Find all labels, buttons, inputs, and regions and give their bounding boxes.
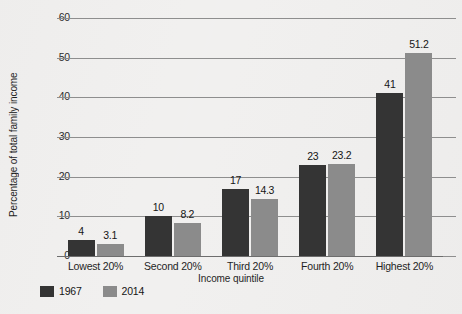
bar-1967-third-20-: [222, 189, 249, 256]
chart-page: Percentage of total family income 010203…: [0, 0, 462, 314]
gridline-50: [57, 58, 443, 59]
legend-swatch-icon: [40, 286, 54, 297]
bar-value-label: 23.2: [322, 149, 361, 161]
x-axis-title: Income quintile: [0, 273, 462, 284]
gridline-0: [57, 256, 443, 257]
bar-1967-highest-20-: [376, 93, 403, 256]
legend-label: 2014: [122, 285, 145, 297]
bar-value-label: 51.2: [399, 38, 438, 50]
x-tick-label-5: Highest 20%: [359, 260, 449, 272]
y-axis-title: Percentage of total family income: [8, 50, 22, 240]
bar-value-label: 41: [370, 78, 409, 90]
right-tick-20: [443, 177, 456, 178]
right-tick-30: [443, 137, 456, 138]
bar-value-label: 14.3: [245, 184, 284, 196]
bar-1967-second-20-: [145, 216, 172, 256]
legend-swatch-icon: [103, 286, 117, 297]
right-tick-40: [443, 97, 456, 98]
right-tick-10: [443, 216, 456, 217]
bar-2014-lowest-20-: [97, 244, 124, 256]
bar-2014-second-20-: [174, 223, 201, 256]
bar-2014-fourth-20-: [328, 164, 355, 256]
bar-value-label: 3.1: [91, 229, 130, 241]
plot-area: 43.1108.21714.32323.24151.2: [57, 18, 443, 256]
legend-item-1967[interactable]: 1967: [40, 285, 82, 297]
bar-2014-highest-20-: [405, 53, 432, 256]
bar-1967-lowest-20-: [68, 240, 95, 256]
legend-item-2014[interactable]: 2014: [103, 285, 145, 297]
chart-legend: 19672014: [40, 285, 144, 297]
gridline-60: [57, 18, 443, 19]
right-tick-60: [443, 18, 456, 19]
bar-1967-fourth-20-: [299, 165, 326, 256]
bar-2014-third-20-: [251, 199, 278, 256]
legend-label: 1967: [59, 285, 82, 297]
right-tick-50: [443, 58, 456, 59]
bar-value-label: 8.2: [168, 208, 207, 220]
right-tick-0: [443, 256, 456, 257]
